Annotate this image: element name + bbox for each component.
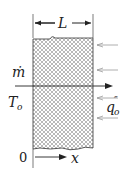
porous-slab-diagram: L ṁ T o q ″ o 0 x xyxy=(0,0,132,177)
svg-text:o: o xyxy=(17,102,23,112)
x-axis: 0 x xyxy=(19,149,79,168)
svg-text:o: o xyxy=(114,107,120,117)
porous-slab xyxy=(33,37,93,150)
thickness-dimension: L xyxy=(33,14,93,38)
origin-label: 0 xyxy=(19,150,27,165)
inlet-temperature-label: T o xyxy=(8,94,23,112)
thickness-label: L xyxy=(57,15,67,31)
heat-flux-label: q ″ o xyxy=(106,94,120,117)
svg-text:″: ″ xyxy=(114,94,118,105)
axis-label: x xyxy=(71,150,79,166)
mass-flow-label: ṁ xyxy=(12,64,25,80)
